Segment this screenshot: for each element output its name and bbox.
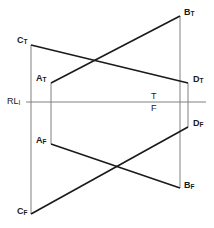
point-label-CF: CF — [17, 207, 27, 217]
line-AF-BF — [51, 144, 180, 188]
reference-line-label-sub: I — [19, 99, 21, 106]
light-projector-lines — [31, 16, 188, 214]
line-CT-DT — [31, 45, 188, 83]
point-label-CT: CT — [17, 36, 27, 46]
point-label-AF-sub: F — [43, 138, 47, 145]
descriptive-geometry-figure: RLI T F CT AT AF CF BT DT DF BF — [0, 0, 214, 228]
point-label-DF-sub: F — [200, 121, 204, 128]
figure-canvas — [0, 0, 214, 228]
line-AT-BT — [51, 16, 180, 83]
reference-line-label: RLI — [7, 97, 20, 107]
reference-line-label-main: RL — [7, 96, 19, 106]
heavy-object-lines — [31, 16, 188, 214]
f-marker-label: F — [151, 104, 157, 113]
point-label-CT-sub: T — [24, 38, 28, 45]
point-label-AT: AT — [36, 74, 46, 84]
point-label-DT-sub: T — [200, 77, 204, 84]
point-label-DT: DT — [193, 75, 203, 85]
t-marker-label: T — [151, 92, 157, 101]
point-label-CF-sub: F — [24, 209, 28, 216]
point-label-AF: AF — [36, 136, 46, 146]
line-CF-DF — [31, 127, 188, 214]
point-label-BT: BT — [184, 8, 194, 18]
point-label-AT-sub: T — [43, 76, 47, 83]
point-label-BF: BF — [184, 181, 194, 191]
point-label-BT-sub: T — [191, 10, 195, 17]
point-label-BF-sub: F — [191, 183, 195, 190]
point-label-DF: DF — [193, 119, 203, 129]
